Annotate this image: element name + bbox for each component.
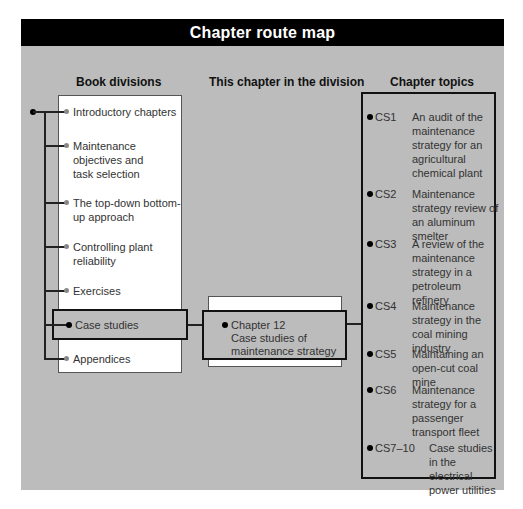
bullet-icon (367, 191, 373, 197)
division-item-controlling-reliability[interactable]: Controlling plant reliability (73, 240, 163, 268)
branch-line-active (44, 324, 68, 326)
topic-code: CS2 (375, 187, 396, 201)
topic-description: Maintenance strategy review of an alumin… (412, 187, 500, 243)
header-book-divisions: Book divisions (76, 75, 161, 89)
bullet-icon (367, 445, 373, 451)
topic-code: CS3 (375, 237, 396, 251)
topic-code: CS5 (375, 347, 396, 361)
chapter-bullet-icon (222, 322, 228, 328)
branch-line (44, 145, 66, 147)
division-item-appendices[interactable]: Appendices (73, 352, 181, 366)
header-chapter-topics: Chapter topics (390, 75, 474, 89)
page-title: Chapter route map (21, 19, 504, 46)
bullet-icon (64, 356, 69, 361)
bullet-icon (367, 114, 373, 120)
bullet-icon (64, 200, 69, 205)
connector-line (33, 111, 66, 113)
branch-line (44, 290, 66, 292)
branch-line (44, 202, 66, 204)
division-item-top-down[interactable]: The top-down bottom-up approach (73, 196, 181, 224)
bullet-icon (367, 241, 373, 247)
bullet-icon (64, 288, 69, 293)
topic-description: Case studies in the electrical power uti… (429, 441, 497, 497)
chapter-title-line1: Case studies of (231, 331, 307, 345)
connector-line (347, 323, 361, 325)
topic-code: CS6 (375, 383, 396, 397)
bullet-icon (64, 143, 69, 148)
topic-code: CS7–10 (375, 441, 415, 455)
chapter-title-line2: maintenance strategy (231, 344, 336, 358)
topic-code: CS1 (375, 110, 396, 124)
bullet-icon (367, 387, 373, 393)
topic-description: An audit of the maintenance strategy for… (412, 110, 500, 180)
branch-line (44, 246, 66, 248)
tree-trunk-line (44, 111, 46, 359)
topic-description: A review of the maintenance strategy in … (412, 237, 500, 307)
bullet-icon (367, 351, 373, 357)
division-item-introductory[interactable]: Introductory chapters (73, 105, 181, 119)
chapter-number[interactable]: Chapter 12 (231, 318, 285, 332)
bullet-icon (367, 303, 373, 309)
topic-description: Maintenance strategy for a passenger tra… (412, 383, 500, 439)
bullet-icon (64, 244, 69, 249)
branch-line (44, 358, 66, 360)
division-item-case-studies[interactable]: Case studies (75, 318, 183, 332)
division-item-maintenance-objectives[interactable]: Maintenance objectives and task selectio… (73, 139, 163, 181)
active-bullet-icon (66, 322, 72, 328)
header-this-chapter: This chapter in the division (209, 75, 364, 89)
division-item-exercises[interactable]: Exercises (73, 284, 181, 298)
topic-code: CS4 (375, 299, 396, 313)
bullet-icon (64, 109, 69, 114)
